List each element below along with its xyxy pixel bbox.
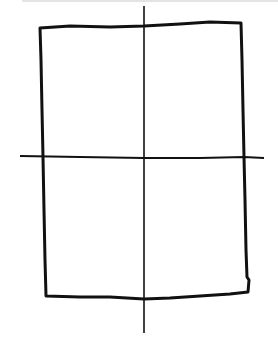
sketch-canvas <box>0 0 278 340</box>
horizontal-axis-line <box>20 156 264 158</box>
